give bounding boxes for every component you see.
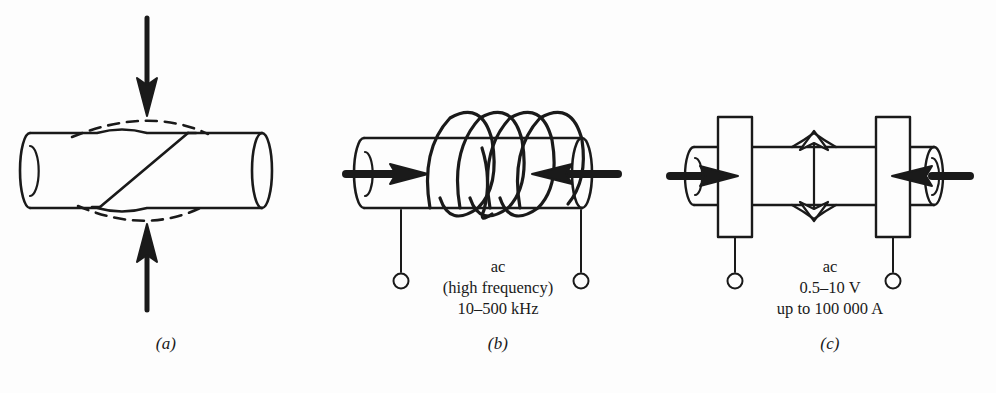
panel-b-annot-line-1: ac (332, 256, 664, 277)
induction-coil-b (428, 112, 584, 218)
force-arrow-up-a (137, 224, 157, 310)
panel-c-annot-line-2: 0.5–10 V (664, 277, 996, 298)
workpiece-cylinder-a (20, 130, 272, 212)
force-arrow-right-b (346, 164, 428, 184)
panel-b-annot-line-3: 10–500 kHz (332, 298, 664, 319)
panel-c-annotation: ac 0.5–10 V up to 100 000 A (664, 256, 996, 319)
figure-root: (a) (0, 0, 996, 393)
panel-b: ac (high frequency) 10–500 kHz (b) (332, 0, 664, 393)
panel-a-caption: (a) (0, 334, 332, 354)
panel-a: (a) (0, 0, 332, 393)
panel-b-annot-line-2: (high frequency) (332, 277, 664, 298)
force-arrow-left-b (532, 164, 618, 184)
panel-c-caption: (c) (664, 334, 996, 354)
panel-b-caption: (b) (332, 334, 664, 354)
panel-c-annot-line-1: ac (664, 256, 996, 277)
flash-upset-double-arrow-c (792, 131, 836, 221)
panel-c-annot-line-3: up to 100 000 A (664, 298, 996, 319)
weld-interface-line-a (92, 133, 196, 207)
panel-c: ac 0.5–10 V up to 100 000 A (c) (664, 0, 996, 393)
force-arrow-down-a (137, 18, 157, 116)
panel-b-annotation: ac (high frequency) 10–500 kHz (332, 256, 664, 319)
